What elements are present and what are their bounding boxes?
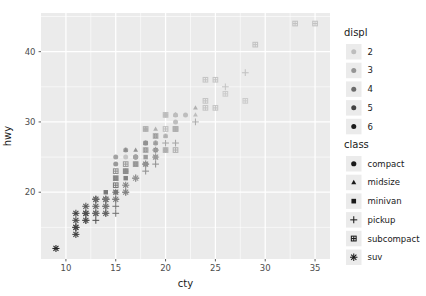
legend-displ-key-label: 2 — [368, 47, 373, 57]
legend-class[interactable]: class compactmidsizeminivanpickupsubcomp… — [344, 139, 420, 265]
legend-class-key-label: pickup — [368, 215, 396, 225]
legend-class-key-label: compact — [368, 159, 405, 169]
legend-displ-title: displ — [344, 27, 367, 38]
x-tick-label: 35 — [310, 263, 321, 273]
legend-displ-key-label: 4 — [368, 84, 373, 94]
y-tick-label: 20 — [25, 187, 36, 197]
data-point — [92, 210, 99, 217]
legend-class-marker — [351, 199, 356, 204]
data-point — [72, 231, 79, 238]
legend-displ-key-label: 6 — [368, 122, 373, 132]
legend-displ-marker — [351, 124, 356, 129]
x-tick-label: 30 — [260, 263, 271, 273]
data-point — [183, 112, 188, 117]
y-tick-label: 30 — [25, 117, 36, 127]
legend-displ-marker — [351, 105, 356, 110]
data-point — [82, 210, 89, 217]
data-point — [123, 155, 128, 160]
scatter-plot-svg: 101520253035 203040 cty hwy displ 23456 … — [0, 0, 426, 296]
x-axis-title: cty — [178, 278, 193, 289]
data-point — [123, 176, 127, 180]
data-point — [142, 161, 149, 168]
legend-class-key-label: midsize — [368, 177, 401, 187]
data-point — [122, 189, 129, 196]
data-point — [102, 196, 109, 203]
data-point — [113, 162, 118, 167]
y-axis-title: hwy — [2, 126, 13, 147]
y-axis: 203040 — [25, 47, 41, 198]
data-point — [52, 245, 59, 252]
data-point — [112, 196, 119, 203]
data-point — [173, 119, 178, 124]
x-tick-label: 20 — [160, 263, 171, 273]
legend-class-marker — [350, 254, 357, 261]
data-point — [72, 224, 79, 231]
data-point — [143, 155, 147, 159]
data-point — [92, 196, 99, 203]
legend-displ-marker — [351, 87, 356, 92]
data-point — [72, 210, 79, 217]
data-point — [102, 203, 109, 210]
x-tick-label: 10 — [60, 263, 71, 273]
data-point — [104, 190, 108, 194]
legend-class-key-label: minivan — [368, 196, 402, 206]
data-point — [122, 182, 129, 189]
legend-displ[interactable]: displ 23456 — [344, 27, 373, 134]
data-point — [82, 217, 89, 224]
data-point — [112, 189, 119, 196]
x-tick-label: 15 — [110, 263, 121, 273]
data-point — [133, 155, 138, 160]
data-point — [132, 175, 139, 182]
data-point — [82, 203, 89, 210]
legend-class-title: class — [344, 139, 369, 150]
data-point — [92, 203, 99, 210]
x-tick-label: 25 — [210, 263, 221, 273]
x-axis: 101520253035 — [60, 259, 320, 273]
legend-displ-key-label: 5 — [368, 103, 373, 113]
legend-displ-marker — [351, 68, 356, 73]
data-point — [143, 141, 147, 145]
legend-displ-keys[interactable]: 23456 — [346, 44, 373, 134]
y-tick-label: 40 — [25, 47, 36, 57]
legend-class-marker — [351, 161, 356, 166]
legend-displ-key-label: 3 — [368, 65, 373, 75]
data-point — [113, 155, 118, 160]
data-point — [72, 217, 79, 224]
legend-class-keys[interactable]: compactmidsizeminivanpickupsubcompactsuv — [346, 156, 420, 265]
legend-class-key-label: suv — [368, 252, 383, 262]
chart-container: 101520253035 203040 cty hwy displ 23456 … — [0, 0, 426, 296]
data-point — [152, 154, 159, 161]
legend-displ-marker — [351, 49, 356, 54]
data-point — [102, 210, 109, 217]
legend-class-key-label: subcompact — [368, 234, 421, 244]
